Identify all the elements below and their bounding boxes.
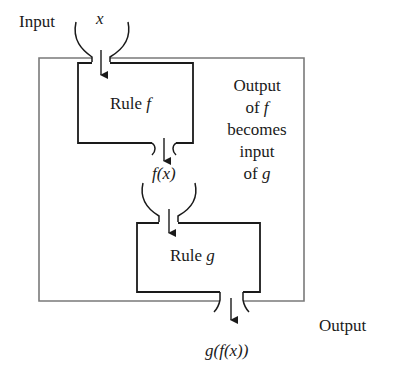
composition-diagram-graphics bbox=[0, 0, 410, 366]
input-variable-x: x bbox=[96, 9, 104, 29]
annotation-line-2: of f bbox=[217, 97, 297, 119]
annotation-line-1: Output bbox=[217, 75, 297, 97]
rule-g-name: g bbox=[206, 246, 215, 265]
input-label: Input bbox=[19, 12, 55, 32]
composition-annotation: Output of f becomes input of g bbox=[217, 75, 297, 185]
rule-f-label: Rule f bbox=[110, 94, 151, 114]
rule-f-name: f bbox=[146, 94, 151, 113]
final-output-gfx: g(f(x)) bbox=[205, 341, 248, 361]
output-label: Output bbox=[319, 316, 366, 336]
annotation-line-4: input bbox=[217, 141, 297, 163]
annotation-line-5: of g bbox=[217, 163, 297, 185]
rule-g-label: Rule g bbox=[170, 246, 215, 266]
annotation-var-g: g bbox=[262, 164, 271, 183]
rule-g-prefix: Rule bbox=[170, 246, 206, 265]
intermediate-value-fx: f(x) bbox=[152, 164, 176, 184]
rule-f-prefix: Rule bbox=[110, 94, 146, 113]
annotation-var-f: f bbox=[264, 98, 269, 117]
annotation-line-3: becomes bbox=[217, 119, 297, 141]
